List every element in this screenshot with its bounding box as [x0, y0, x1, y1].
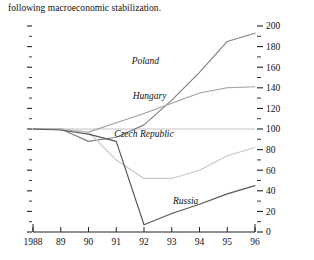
left-axis [27, 26, 33, 232]
x-axis-tick-label: 92 [139, 237, 149, 247]
y-axis-tick-label: 120 [266, 104, 281, 114]
series-label-russia: Russia [172, 196, 199, 206]
x-axis-tick-label: 93 [167, 237, 177, 247]
y-axis-tick-label: 60 [266, 166, 276, 176]
right-axis: 020406080100120140160180200 [255, 21, 281, 237]
series-line-poland [33, 33, 255, 141]
x-axis-tick-label: 1988 [24, 237, 43, 247]
y-axis-tick-label: 160 [266, 63, 281, 73]
line-chart: 020406080100120140160180200 198889909192… [0, 16, 314, 260]
bottom-axis: 19888990919293949596 [24, 227, 261, 247]
series-label-hungary: Hungary [132, 91, 168, 101]
y-axis-tick-label: 180 [266, 42, 281, 52]
x-axis-tick-label: 96 [250, 237, 260, 247]
x-axis-tick-label: 89 [56, 237, 66, 247]
y-axis-tick-label: 100 [266, 124, 281, 134]
x-axis-tick-label: 90 [84, 237, 94, 247]
y-axis-tick-label: 200 [266, 21, 281, 31]
chart-figure: 020406080100120140160180200 198889909192… [0, 16, 314, 260]
series-line-russia [33, 129, 255, 225]
y-axis-tick-label: 80 [266, 145, 276, 155]
series-label-czech-republic: Czech Republic [114, 129, 174, 139]
y-axis-tick-label: 40 [266, 186, 276, 196]
figure-caption: following macroeconomic stabilization. [8, 2, 308, 14]
y-axis-tick-label: 0 [266, 227, 271, 237]
x-axis-tick-label: 95 [223, 237, 233, 247]
y-axis-tick-label: 20 [266, 207, 276, 217]
y-axis-tick-label: 140 [266, 83, 281, 93]
series-labels: PolandHungaryCzech RepublicRussia [114, 56, 198, 206]
x-axis-tick-label: 94 [195, 237, 205, 247]
x-axis-tick-label: 91 [112, 237, 122, 247]
series-label-poland: Poland [131, 56, 160, 66]
